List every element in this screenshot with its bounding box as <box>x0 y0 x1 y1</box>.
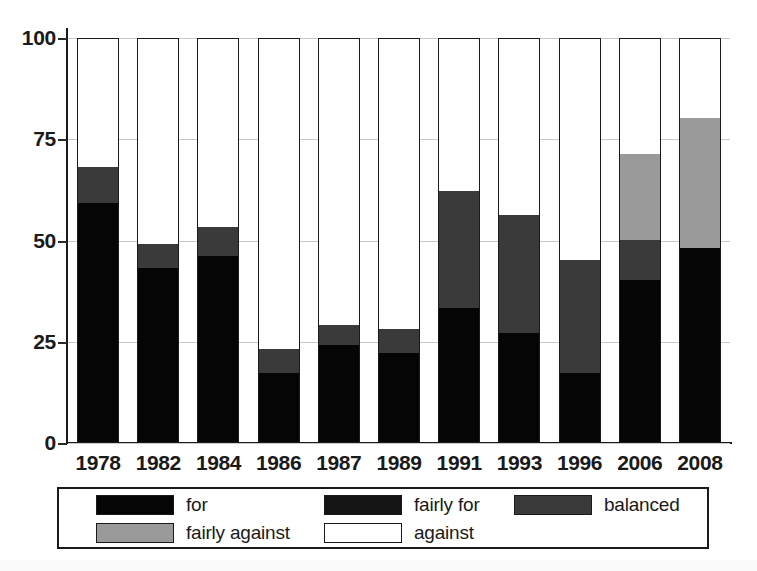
legend-row-bottom: fairly against against <box>59 520 707 546</box>
stacked-bar-chart: 1007550250 19781982198419861987198919911… <box>0 0 757 571</box>
bar-segment-2006-balanced <box>620 240 660 281</box>
bar-segment-1987-for <box>319 345 359 442</box>
bar-segment-1987-against <box>319 38 359 325</box>
bar-1991[interactable] <box>438 38 480 443</box>
x-axis-label-1984: 1984 <box>188 451 248 475</box>
legend-swatch-balanced <box>514 495 592 515</box>
bar-segment-1982-balanced <box>138 244 178 268</box>
bar-segment-1989-balanced <box>379 329 419 353</box>
legend-item-for[interactable]: for <box>96 494 208 516</box>
bar-segment-1982-for <box>138 268 178 442</box>
bar-segment-1989-for <box>379 353 419 442</box>
bar-segment-1984-balanced <box>198 227 238 255</box>
legend-label-fairly-for: fairly for <box>414 494 480 516</box>
legend-label-for: for <box>186 494 208 516</box>
x-axis-label-1996: 1996 <box>550 451 610 475</box>
x-axis-label-2008: 2008 <box>670 451 730 475</box>
bar-segment-2008-fairly-against <box>680 118 720 248</box>
y-tick-mark-100 <box>58 38 67 40</box>
legend-swatch-against <box>324 523 402 543</box>
bar-segment-1996-balanced <box>560 260 600 373</box>
y-tick-mark-75 <box>58 139 67 141</box>
legend-swatch-for <box>96 495 174 515</box>
bar-segment-2006-against <box>620 38 660 154</box>
bar-segment-2008-against <box>680 38 720 118</box>
y-tick-label-wrap: 0 <box>0 431 56 453</box>
x-axis-label-2006: 2006 <box>610 451 670 475</box>
bar-segment-1993-balanced <box>499 215 539 332</box>
legend-label-fairly-against: fairly against <box>186 522 290 544</box>
y-tick-label-75: 75 <box>4 127 56 151</box>
bar-segment-1991-against <box>439 38 479 191</box>
x-axis-label-1987: 1987 <box>309 451 369 475</box>
bar-1978[interactable] <box>77 38 119 443</box>
bar-segment-1984-for <box>198 256 238 442</box>
legend-item-against[interactable]: against <box>324 522 474 544</box>
x-axis-label-1986: 1986 <box>249 451 309 475</box>
bar-segment-1982-against <box>138 38 178 244</box>
bar-segment-1996-against <box>560 38 600 260</box>
legend-item-fairly-for[interactable]: fairly for <box>324 494 480 516</box>
bar-segment-1986-balanced <box>259 349 299 373</box>
y-tick-label-0: 0 <box>4 431 56 455</box>
legend-label-against: against <box>414 522 474 544</box>
y-tick-mark-25 <box>58 342 67 344</box>
y-tick-label-100: 100 <box>4 26 56 50</box>
bar-segment-1989-against <box>379 38 419 329</box>
bar-segment-2008-for <box>680 248 720 442</box>
y-tick-mark-50 <box>58 241 67 243</box>
legend-row-top: for fairly for balanced <box>59 492 707 518</box>
page-edge-artifact <box>0 560 757 571</box>
plot-area <box>68 38 730 443</box>
bar-segment-1986-against <box>259 38 299 349</box>
bar-1984[interactable] <box>197 38 239 443</box>
bar-segment-1978-against <box>78 38 118 167</box>
y-tick-label-25: 25 <box>4 330 56 354</box>
bar-1989[interactable] <box>378 38 420 443</box>
bar-2008[interactable] <box>679 38 721 443</box>
legend-swatch-fairly-against <box>96 523 174 543</box>
x-axis-label-1991: 1991 <box>429 451 489 475</box>
bar-segment-1987-balanced <box>319 325 359 345</box>
legend-item-fairly-against[interactable]: fairly against <box>96 522 290 544</box>
y-tick-label-wrap: 100 <box>0 26 56 48</box>
chart-legend: for fairly for balanced fairly against a… <box>57 487 709 549</box>
bar-1993[interactable] <box>498 38 540 443</box>
bar-2006[interactable] <box>619 38 661 443</box>
y-tick-mark-0 <box>58 443 67 445</box>
bar-segment-1993-against <box>499 38 539 215</box>
bar-segment-1978-for <box>78 203 118 442</box>
bar-1986[interactable] <box>258 38 300 443</box>
bar-segment-1996-for <box>560 373 600 442</box>
y-tick-label-wrap: 25 <box>0 330 56 352</box>
x-axis-label-1978: 1978 <box>68 451 128 475</box>
x-axis-label-1982: 1982 <box>128 451 188 475</box>
y-tick-label-wrap: 75 <box>0 127 56 149</box>
bar-segment-1991-balanced <box>439 191 479 308</box>
bar-segment-1986-for <box>259 373 299 442</box>
x-axis-label-1993: 1993 <box>489 451 549 475</box>
y-tick-label-50: 50 <box>4 229 56 253</box>
bar-segment-1991-for <box>439 308 479 442</box>
legend-swatch-fairly-for <box>324 495 402 515</box>
gridline-0 <box>68 443 730 444</box>
bar-1987[interactable] <box>318 38 360 443</box>
bar-segment-1993-for <box>499 333 539 442</box>
bar-segment-1978-balanced <box>78 167 118 203</box>
x-axis-label-1989: 1989 <box>369 451 429 475</box>
bar-segment-2006-fairly-against <box>620 154 660 239</box>
bar-1996[interactable] <box>559 38 601 443</box>
bar-segment-1984-against <box>198 38 238 227</box>
bar-1982[interactable] <box>137 38 179 443</box>
legend-item-balanced[interactable]: balanced <box>514 494 680 516</box>
y-tick-label-wrap: 50 <box>0 229 56 251</box>
legend-label-balanced: balanced <box>604 494 680 516</box>
bar-segment-2006-for <box>620 280 660 442</box>
